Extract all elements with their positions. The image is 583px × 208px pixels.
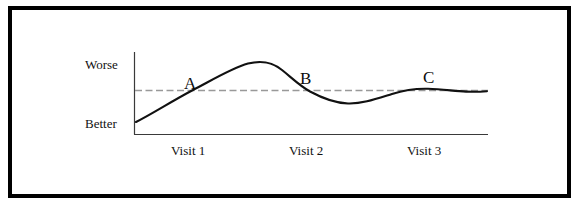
figure-root: Worse Better Visit 1 Visit 2 Visit 3 A B… xyxy=(0,0,583,208)
chart-canvas xyxy=(0,0,583,208)
y-axis-label-worse: Worse xyxy=(85,58,118,71)
curve-annotation-b: B xyxy=(300,70,311,87)
x-axis-tick-label-visit-1: Visit 1 xyxy=(171,144,205,157)
curve-annotation-c: C xyxy=(423,69,434,86)
x-axis-tick-label-visit-2: Visit 2 xyxy=(289,144,323,157)
y-axis-label-better: Better xyxy=(85,117,117,130)
plot-area: Worse Better Visit 1 Visit 2 Visit 3 A B… xyxy=(0,0,583,208)
x-axis-tick-label-visit-3: Visit 3 xyxy=(407,144,441,157)
curve-annotation-a: A xyxy=(184,75,196,92)
